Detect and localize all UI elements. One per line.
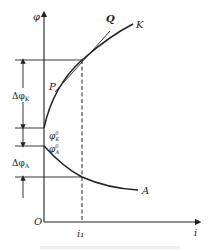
phi-a0-label: φ0A — [49, 143, 60, 155]
curve-a-label: A — [141, 185, 149, 196]
polarization-diagram: φ i O i₁ K Q P A ΔφK φ0K φ0A ΔφA — [0, 0, 214, 251]
y-axis-label: φ — [33, 11, 40, 22]
x-axis-label: i — [194, 227, 197, 238]
origin-label: O — [34, 216, 42, 227]
phi-k0-label: φ0K — [49, 130, 60, 142]
point-p-label: P — [48, 81, 56, 92]
x-tick-i1-label: i₁ — [77, 228, 84, 239]
delta-phi-a-label: ΔφA — [12, 158, 30, 169]
tangent-q-label: Q — [106, 13, 115, 24]
curve-k — [44, 24, 133, 128]
curve-k-label: K — [135, 19, 144, 30]
delta-phi-k-label: ΔφK — [12, 91, 30, 102]
faint-caption — [40, 246, 180, 249]
